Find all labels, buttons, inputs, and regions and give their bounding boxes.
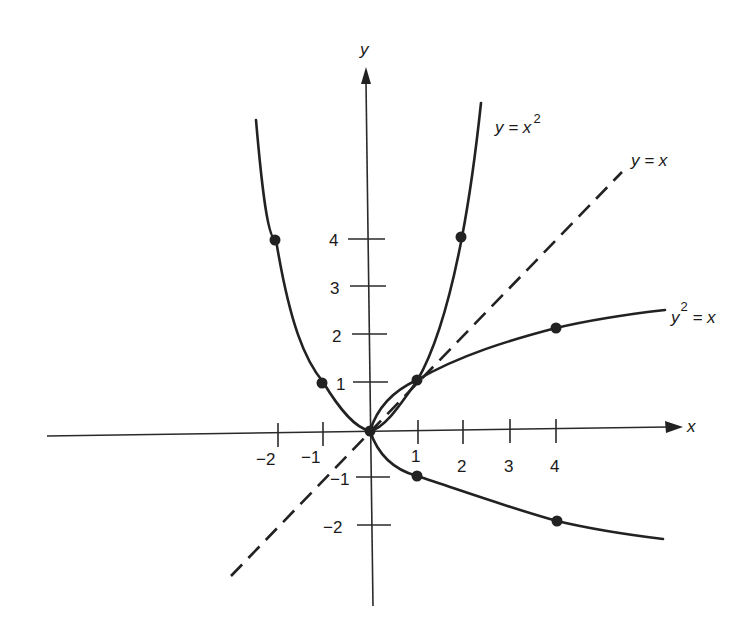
y-axis-label: y [359,40,370,59]
graph-svg: x y −2 −1 1 2 3 4 [0,0,739,639]
label-y-equals-x: y = x [630,151,668,170]
y-tick-label: 2 [332,327,341,346]
curve-y-squared-equals-x-upper [370,310,665,431]
y-tick-label: 3 [330,279,339,298]
y-tick-label: 4 [329,231,338,250]
point-1-1 [412,375,423,386]
label-y-equals-x-squared: y = x2 [494,111,541,137]
point-origin [365,426,376,437]
point-4-neg2 [552,516,563,527]
x-axis-label: x [686,417,696,436]
point-neg1-1 [317,378,328,389]
point-1-neg1 [412,471,423,482]
y-tick-label: −1 [330,470,349,489]
point-neg2-4 [270,235,281,246]
y-axis-arrow-icon [361,67,371,84]
x-tick-label: −2 [256,450,275,469]
point-2-4 [456,232,467,243]
x-tick-label: 4 [550,457,559,476]
x-tick-label: 2 [457,457,466,476]
x-tick-label: 1 [411,447,420,466]
x-axis-arrow-icon [665,421,683,433]
y-ticks [348,239,391,525]
y-axis [366,82,373,606]
point-4-2 [551,323,562,334]
y-tick-label: 1 [336,375,345,394]
x-axis [47,427,668,436]
y-tick-label: −2 [323,518,342,537]
x-tick-label: −1 [301,448,320,467]
x-tick-label: 3 [504,457,513,476]
function-graph-figure: x y −2 −1 1 2 3 4 [0,0,739,639]
x-ticks [278,419,556,447]
marked-points [270,232,563,527]
label-y-squared-equals-x: y2 = x [670,299,716,327]
